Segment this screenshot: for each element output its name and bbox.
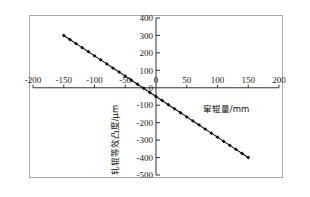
y-tick-label: -300: [137, 135, 154, 145]
x-tick-label: 150: [242, 75, 256, 85]
y-tick-label: -400: [137, 153, 154, 163]
chart-canvas: -200-150-100-50050100150200 -500-400-300…: [0, 0, 310, 197]
x-tick-label: -100: [86, 75, 103, 85]
x-tick-label: 100: [211, 75, 225, 85]
y-tick-label: 200: [140, 48, 154, 58]
chart-figure: -200-150-100-50050100150200 -500-400-300…: [0, 0, 310, 197]
y-tick-label: 300: [140, 31, 154, 41]
y-tick-labels: -500-400-300-200-1000100200300400: [137, 13, 154, 180]
y-tick-label: -500: [137, 170, 154, 180]
x-tick-labels: -200-150-100-50050100150200: [25, 75, 287, 85]
y-tick-label: 100: [140, 66, 154, 76]
x-tick-label: 0: [154, 75, 159, 85]
x-tick-label: 50: [182, 75, 192, 85]
x-tick-label: -150: [56, 75, 73, 85]
y-tick-label: -100: [137, 100, 154, 110]
x-tick-label: 200: [272, 75, 286, 85]
x-axis-title: 窜辊量/mm: [203, 104, 249, 114]
x-tick-label: -200: [25, 75, 42, 85]
y-tick-label: -200: [137, 118, 154, 128]
y-tick-label: 400: [140, 13, 154, 23]
y-axis-title: 轧辊等效凸度/μm: [110, 105, 120, 176]
